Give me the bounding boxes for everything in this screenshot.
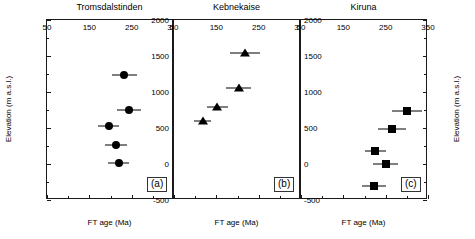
data-point-square (371, 147, 379, 155)
y-tick-major (47, 20, 51, 21)
x-tick-major (216, 195, 217, 199)
x-tick-major (47, 195, 48, 199)
data-point-square (382, 160, 390, 168)
panel-title-b: Kebnekaise (173, 2, 300, 12)
x-tick-minor (238, 196, 239, 199)
plot-area-tromsdalstinden: 501502503502000150010005000-500 (46, 19, 173, 199)
x-tick-label: 50 (170, 23, 179, 32)
y-tick-major (47, 164, 51, 165)
y-tick-major (423, 20, 427, 21)
panel-label-c: (c) (401, 177, 421, 192)
x-tick-label: 150 (83, 23, 96, 32)
x-tick-major (386, 195, 387, 199)
y-tick-major (47, 200, 51, 201)
y-tick-minor (47, 38, 50, 39)
x-tick-label: 250 (379, 23, 392, 32)
x-axis-title-a: FT age (Ma) (88, 218, 132, 227)
panel-label-a: (a) (147, 177, 167, 192)
x-tick-minor (111, 196, 112, 199)
y-tick-label: 1000 (304, 88, 322, 97)
x-tick-minor (68, 196, 69, 199)
y-tick-minor (424, 38, 427, 39)
x-tick-major (343, 195, 344, 199)
x-tick-label: 250 (252, 23, 265, 32)
y-tick-label: 0 (165, 160, 169, 169)
y-tick-label: 1500 (304, 52, 322, 61)
data-point-triangle (234, 83, 244, 91)
x-axis-title-b: FT age (Ma) (215, 218, 259, 227)
y-tick-major (47, 92, 51, 93)
y-tick-major (423, 164, 427, 165)
x-axis-title-c: FT age (Ma) (342, 218, 386, 227)
y-tick-label: 1500 (151, 52, 169, 61)
panel-label-b: (b) (274, 177, 294, 192)
y-tick-minor (424, 110, 427, 111)
panel-title-a: Tromsdalstinden (46, 2, 173, 12)
y-axis-title-left: Elevation (m a.s.l.) (4, 76, 13, 142)
x-tick-label: 250 (125, 23, 138, 32)
data-point-square (388, 125, 396, 133)
x-tick-major (428, 195, 429, 199)
y-tick-minor (47, 110, 50, 111)
y-tick-minor (47, 146, 50, 147)
x-tick-minor (195, 196, 196, 199)
y-tick-label: -500 (153, 196, 169, 205)
y-tick-minor (47, 182, 50, 183)
x-tick-major (89, 195, 90, 199)
data-point-circle (112, 141, 120, 149)
data-point-circle (120, 71, 128, 79)
x-tick-minor (322, 196, 323, 199)
data-point-circle (105, 122, 113, 130)
y-tick-label: 1000 (151, 88, 169, 97)
y-tick-label: 500 (304, 124, 317, 133)
panel-title-c: Kiruna (300, 2, 427, 12)
y-axis-title-right: Elevation (m a.s.l.) (452, 76, 461, 142)
y-tick-label: -500 (304, 196, 320, 205)
plot-area-kebnekaise: 50150250350 (173, 19, 300, 199)
y-tick-major (47, 128, 51, 129)
y-tick-major (423, 92, 427, 93)
data-point-triangle (240, 49, 250, 57)
x-tick-major (132, 195, 133, 199)
x-tick-major (174, 195, 175, 199)
y-tick-minor (424, 146, 427, 147)
y-tick-minor (47, 74, 50, 75)
data-point-square (370, 182, 378, 190)
figure-root: Tromsdalstinden Kebnekaise Kiruna 501502… (0, 0, 475, 239)
y-tick-major (423, 56, 427, 57)
y-tick-label: 2000 (304, 16, 322, 25)
x-tick-label: 50 (43, 23, 52, 32)
x-tick-minor (280, 196, 281, 199)
x-tick-label: 350 (421, 23, 434, 32)
y-tick-minor (424, 74, 427, 75)
data-point-circle (125, 106, 133, 114)
y-tick-label: 500 (156, 124, 169, 133)
data-point-triangle (198, 116, 208, 124)
y-tick-major (423, 200, 427, 201)
x-tick-major (259, 195, 260, 199)
x-tick-minor (365, 196, 366, 199)
x-tick-minor (407, 196, 408, 199)
x-tick-major (301, 195, 302, 199)
plot-area-kiruna: 501502503502000150010005000-500 (300, 19, 427, 199)
y-tick-major (423, 128, 427, 129)
y-tick-label: 2000 (151, 16, 169, 25)
data-point-square (403, 107, 411, 115)
data-point-circle (115, 159, 123, 167)
y-tick-major (47, 56, 51, 57)
data-point-triangle (212, 103, 222, 111)
x-tick-label: 150 (337, 23, 350, 32)
y-tick-label: 0 (304, 160, 308, 169)
y-tick-minor (424, 182, 427, 183)
x-tick-label: 150 (210, 23, 223, 32)
